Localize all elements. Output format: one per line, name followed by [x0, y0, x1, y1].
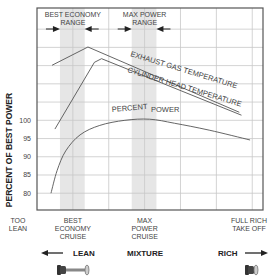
- mixture-knob-pushed-icon: [245, 265, 258, 275]
- range-arrow-left-icon: [85, 26, 92, 32]
- y-tick-label: 90: [23, 153, 31, 160]
- range-arrow-right-icon: [53, 26, 60, 32]
- x-annotation-0-line-0: TOO: [10, 217, 26, 224]
- x-annotation-2-line-0: MAX: [137, 217, 153, 224]
- range-label-1-line-1: RANGE: [132, 19, 157, 26]
- range-arrow-right-icon: [125, 26, 132, 32]
- range-label-0-line-1: RANGE: [60, 19, 85, 26]
- power-label-part2: POWER: [151, 105, 180, 114]
- y-tick-label: 80: [23, 190, 31, 197]
- x-annotation-3-line-1: TAKE OFF: [232, 225, 266, 232]
- rich-label: RICH: [218, 249, 238, 258]
- x-annotations: TOOLEANBESTECONOMYCRUISEMAXPOWERCRUISEFU…: [9, 217, 267, 240]
- x-annotation-2-line-1: POWER: [131, 225, 157, 232]
- x-annotation-2-line-2: CRUISE: [131, 233, 158, 240]
- x-annotation-1-line-0: BEST: [64, 217, 83, 224]
- range-label-1-line-0: MAX POWER: [123, 11, 167, 18]
- x-annotation-1-line-1: ECONOMY: [55, 225, 92, 232]
- mixture-chart: BEST ECONOMYRANGEMAX POWERRANGE 80859095…: [0, 0, 276, 277]
- x-annotation-3-line-0: FULL RICH: [231, 217, 267, 224]
- mixture-label: MIXTURE: [127, 249, 164, 258]
- y-tick-label: 95: [23, 135, 31, 142]
- rich-arrow-icon: [245, 250, 268, 256]
- x-annotation-0-line-1: LEAN: [9, 225, 27, 232]
- y-tick-labels: 80859095100: [19, 117, 31, 197]
- x-annotation-1-line-2: CRUISE: [60, 233, 87, 240]
- range-arrow-left-icon: [156, 26, 163, 32]
- range-label-0-line-0: BEST ECONOMY: [45, 11, 102, 18]
- lean-label: LEAN: [73, 249, 95, 258]
- y-axis-label: PERCENT OF BEST POWER: [4, 93, 14, 207]
- y-tick-label: 85: [23, 171, 31, 178]
- mixture-knob-pulled-icon: [57, 265, 89, 275]
- range-band-0: [60, 8, 85, 210]
- lean-arrow-icon: [41, 250, 63, 256]
- y-tick-label: 100: [19, 117, 31, 124]
